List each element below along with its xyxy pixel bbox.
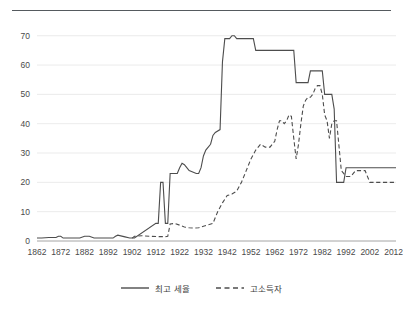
y-tick-label: 20 [21, 177, 31, 187]
data-series [37, 36, 396, 238]
series-line-top-rate [37, 36, 396, 238]
series-line-high-income [132, 86, 396, 238]
x-tick-label: 1872 [51, 247, 70, 257]
gridlines [37, 36, 396, 241]
x-axis-ticks: 1862187218821892190219121922193219421952… [28, 247, 403, 257]
x-tick-label: 2002 [360, 247, 379, 257]
x-tick-label: 1902 [123, 247, 142, 257]
line-chart-svg: 010203040506070 186218721882189219021912… [0, 14, 403, 262]
legend-swatch-dashed [216, 284, 244, 292]
legend-item-top-rate: 최고 세율 [121, 282, 189, 294]
chart-figure: 010203040506070 186218721882189219021912… [0, 0, 403, 313]
y-tick-label: 30 [21, 148, 31, 158]
legend-label-top-rate: 최고 세율 [155, 282, 189, 294]
y-tick-label: 70 [21, 31, 31, 41]
x-tick-label: 1922 [170, 247, 189, 257]
legend-item-high-income: 고소득자 [216, 282, 282, 294]
y-tick-label: 10 [21, 207, 31, 217]
x-tick-label: 1932 [194, 247, 213, 257]
y-axis-ticks: 010203040506070 [21, 31, 31, 246]
x-tick-label: 1952 [242, 247, 261, 257]
x-tick-label: 1862 [28, 247, 47, 257]
x-tick-label: 1882 [75, 247, 94, 257]
chart-legend: 최고 세율 고소득자 [0, 276, 403, 300]
x-tick-label: 1892 [99, 247, 118, 257]
x-tick-label: 1962 [265, 247, 284, 257]
x-tick-label: 1942 [218, 247, 237, 257]
y-tick-label: 40 [21, 119, 31, 129]
legend-swatch-solid [121, 284, 149, 292]
y-tick-label: 0 [25, 236, 30, 246]
plot-area: 010203040506070 186218721882189219021912… [0, 14, 403, 262]
x-tick-label: 1992 [337, 247, 356, 257]
x-tick-label: 2012 [384, 247, 403, 257]
y-tick-label: 60 [21, 60, 31, 70]
x-tick-label: 1912 [146, 247, 165, 257]
top-divider-rule [12, 10, 391, 11]
y-tick-label: 50 [21, 89, 31, 99]
legend-label-high-income: 고소득자 [250, 282, 282, 294]
x-tick-label: 1972 [289, 247, 308, 257]
x-tick-label: 1982 [313, 247, 332, 257]
